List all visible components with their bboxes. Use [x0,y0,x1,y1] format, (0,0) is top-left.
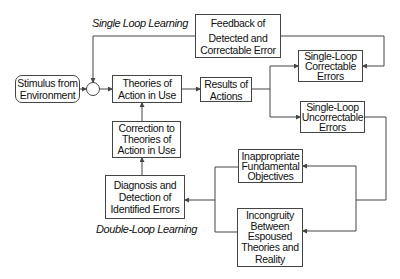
node-text: Results of [204,78,248,90]
node-text: Action in Use [118,89,176,101]
node-text: Reality [241,254,299,265]
node-text: Stimulus from [17,77,77,89]
node-text: Detected and [200,32,275,44]
inappropriate-objectives-node: Inappropriate Fundamental Objectives [238,149,303,183]
stimulus-node: Stimulus from Environment [15,75,80,103]
node-text: Theories and [241,242,299,253]
node-text: Identified Errors [110,203,179,215]
single-loop-correctable-node: Single-Loop Correctable Errors [298,50,363,82]
node-text: Diagnosis and [110,179,179,191]
node-text: Feedback of [200,17,275,29]
summing-junction-icon [87,83,100,96]
node-text: Errors [304,71,357,81]
single-loop-learning-label: Single Loop Learning [92,17,188,29]
node-text: Objectives [242,171,300,181]
node-text: Errors [302,122,363,132]
node-text: Theories of [118,77,176,89]
double-loop-learning-label: Double-Loop Learning [96,223,197,235]
incongruity-node: Incongruity Between Espoused Theories an… [237,208,303,267]
node-text: Actions [204,90,248,102]
node-text: Environment [17,89,77,101]
correction-node: Correction to Theories of Action in Use [112,121,181,158]
node-text: Detection of [110,191,179,203]
single-loop-uncorrectable-node: Single-Loop Uncorrectable Errors [300,101,365,133]
results-of-actions-node: Results of Actions [200,77,252,102]
feedback-node: Feedback of Detected and Correctable Err… [195,14,281,58]
diagnosis-node: Diagnosis and Detection of Identified Er… [105,175,185,219]
node-text: Correctable Error [200,44,275,56]
node-text: Action in Use [118,145,176,156]
theories-of-action-node: Theories of Action in Use [112,75,182,103]
